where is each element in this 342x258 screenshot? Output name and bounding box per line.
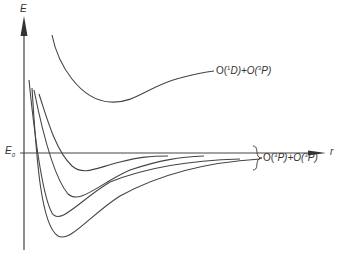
reference-level-label: E0 xyxy=(5,146,15,158)
potential-energy-diagram xyxy=(0,0,342,258)
x-axis-label: r xyxy=(330,147,333,157)
reference-level-symbol: E xyxy=(5,145,12,156)
curve-upper-state xyxy=(52,35,214,102)
curve-lower-state-3 xyxy=(29,80,240,217)
label-superscript: 3 xyxy=(258,65,261,71)
label-part: P) xyxy=(308,152,318,163)
reference-level-subscript: 0 xyxy=(12,152,15,158)
y-axis-label: E xyxy=(20,4,27,14)
y-axis-arrow-icon xyxy=(21,16,28,36)
lower-asymptote-label: O(3P)+O(3P) xyxy=(263,153,318,163)
label-part: O( xyxy=(216,65,227,76)
label-superscript: 1 xyxy=(227,65,230,71)
label-part: P) xyxy=(261,65,271,76)
label-superscript: 3 xyxy=(304,152,307,158)
label-superscript: 3 xyxy=(274,152,277,158)
label-part: P)+O( xyxy=(277,152,304,163)
label-part: O( xyxy=(263,152,274,163)
curve-lower-state-2 xyxy=(34,90,204,197)
upper-asymptote-label: O(1D)+O(3P) xyxy=(216,66,271,76)
brace-icon xyxy=(253,146,262,170)
curve-lower-state-4 xyxy=(32,88,260,237)
curve-lower-state-1 xyxy=(39,94,168,171)
label-part: D)+O( xyxy=(230,65,258,76)
